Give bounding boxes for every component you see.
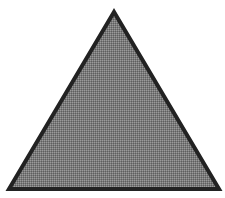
triangle-figure <box>0 0 225 198</box>
triangle-shape <box>9 12 219 189</box>
canvas <box>0 0 225 198</box>
